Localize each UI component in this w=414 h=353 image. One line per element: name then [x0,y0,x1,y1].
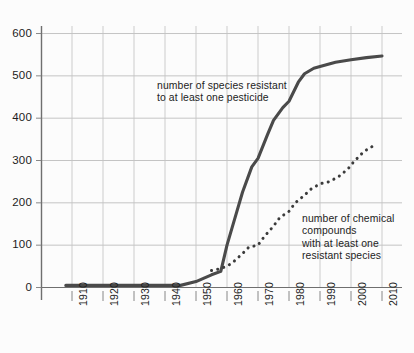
annotation-species-resistant: number of species resistant to at least … [157,80,287,105]
y-axis-tick-label: 500 [2,69,32,81]
y-axis-ticks [36,34,42,288]
x-axis-tick-label: 1990 [325,282,337,306]
x-axis-tick-label: 1980 [294,282,306,306]
y-axis-tick-label: 0 [2,281,32,293]
x-axis-tick-label: 1960 [232,282,244,306]
y-axis-tick-label: 100 [2,238,32,250]
y-axis-tick-label: 300 [2,154,32,166]
x-axis-tick-label: 1970 [263,282,275,306]
resistance-trend-chart: 0100200300400500600 19101920193019401950… [0,0,414,353]
x-axis-tick-label: 2000 [356,282,368,306]
x-axis-tick-label: 1910 [77,282,89,306]
x-axis-tick-label: 1930 [139,282,151,306]
x-axis-tick-label: 1920 [108,282,120,306]
x-axis-tick-label: 2010 [387,282,399,306]
y-axis-tick-label: 200 [2,196,32,208]
x-axis-tick-label: 1950 [201,282,213,306]
x-axis-tick-label: 1940 [170,282,182,306]
y-axis-tick-label: 400 [2,111,32,123]
y-axis-tick-label: 600 [2,27,32,39]
annotation-chemical-compounds: number of chemical compounds with at lea… [302,213,394,263]
